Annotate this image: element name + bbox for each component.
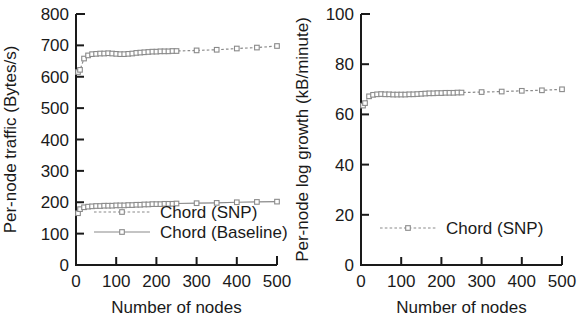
x-tick-label: 200 — [427, 272, 455, 291]
x-axis-label: Number of nodes — [396, 298, 526, 317]
data-point-marker — [120, 230, 125, 235]
data-point-marker — [174, 49, 179, 54]
y-tick-label: 200 — [41, 193, 69, 212]
legend: Chord (SNP)Chord (Baseline) — [94, 203, 288, 242]
y-tick-label: 700 — [41, 36, 69, 55]
y-tick-label: 20 — [335, 206, 354, 225]
data-point-marker — [255, 45, 260, 50]
y-tick-label: 80 — [335, 55, 354, 74]
data-point-marker — [540, 88, 545, 93]
x-tick-label: 500 — [263, 272, 291, 291]
legend-entry-label: Chord (SNP) — [160, 203, 257, 222]
y-axis-label: Per-node traffic (Bytes/s) — [1, 46, 20, 234]
series-group — [361, 87, 565, 108]
x-tick-label: 400 — [508, 272, 536, 291]
y-tick-label: 0 — [60, 256, 69, 275]
x-axis-ticks: 0100200300400500 — [356, 257, 576, 291]
figure-two-panel-chart: 0100200300400500600700800010020030040050… — [0, 0, 585, 319]
data-point-marker — [479, 90, 484, 95]
data-point-marker — [275, 199, 280, 204]
data-point-marker — [120, 210, 125, 215]
x-axis-label: Number of nodes — [111, 298, 241, 317]
chart-panel-per-node-traffic: 0100200300400500600700800010020030040050… — [0, 0, 292, 319]
data-point-marker — [214, 47, 219, 52]
y-axis-ticks: 020406080100 — [326, 5, 369, 275]
data-point-marker — [78, 68, 83, 73]
series-1 — [76, 44, 280, 75]
x-axis-ticks: 0100200300400500 — [71, 257, 291, 291]
per-node-traffic-plot: 0100200300400500600700800010020030040050… — [0, 0, 292, 319]
x-tick-label: 100 — [387, 272, 415, 291]
y-tick-label: 800 — [41, 5, 69, 24]
data-point-marker — [499, 89, 504, 94]
y-tick-label: 60 — [335, 105, 354, 124]
y-tick-label: 500 — [41, 99, 69, 118]
chart-panel-per-node-log-growth: 0204060801000100200300400500Number of no… — [292, 0, 585, 319]
x-tick-label: 0 — [356, 272, 365, 291]
data-point-marker — [560, 87, 565, 92]
data-point-marker — [194, 48, 199, 53]
x-tick-label: 500 — [548, 272, 576, 291]
data-point-marker — [363, 101, 368, 106]
y-axis-label: Per-node log growth (kB/minute) — [293, 17, 312, 262]
series-1 — [361, 87, 565, 108]
y-tick-label: 40 — [335, 156, 354, 175]
y-tick-label: 0 — [345, 256, 354, 275]
y-tick-label: 600 — [41, 68, 69, 87]
data-point-marker — [235, 46, 240, 51]
y-axis-ticks: 0100200300400500600700800 — [41, 5, 84, 275]
x-tick-label: 0 — [71, 272, 80, 291]
data-point-marker — [275, 44, 280, 49]
series-group — [76, 44, 280, 216]
y-tick-label: 400 — [41, 131, 69, 150]
x-tick-label: 100 — [102, 272, 130, 291]
legend-entry-label: Chord (Baseline) — [160, 223, 288, 242]
y-tick-label: 100 — [326, 5, 354, 24]
x-tick-label: 300 — [467, 272, 495, 291]
x-tick-label: 200 — [142, 272, 170, 291]
x-tick-label: 400 — [223, 272, 251, 291]
data-point-marker — [459, 90, 464, 95]
data-point-marker — [520, 89, 525, 94]
x-tick-label: 300 — [182, 272, 210, 291]
legend-entry-label: Chord (SNP) — [446, 219, 543, 238]
y-tick-label: 300 — [41, 162, 69, 181]
legend: Chord (SNP) — [380, 219, 543, 238]
y-tick-label: 100 — [41, 225, 69, 244]
per-node-log-growth-plot: 0204060801000100200300400500Number of no… — [292, 0, 585, 319]
data-point-marker — [406, 226, 411, 231]
